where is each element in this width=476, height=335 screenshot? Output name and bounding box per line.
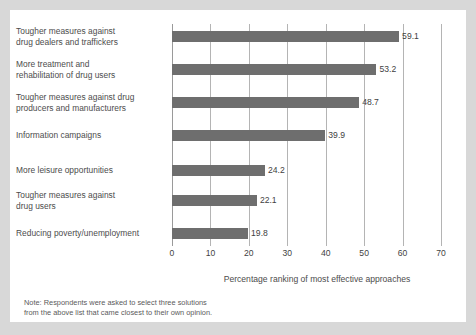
gridline-50 <box>364 24 365 246</box>
gridline-70 <box>441 24 442 246</box>
x-tick-label: 50 <box>359 248 369 259</box>
chart-note: Note: Respondents were asked to select t… <box>24 298 212 318</box>
category-label: More treatment and rehabilitation of dru… <box>16 59 176 80</box>
bar <box>172 130 325 141</box>
bar <box>172 165 265 176</box>
figure-root: Tougher measures against drug dealers an… <box>0 0 476 335</box>
plot-wrapper: Tougher measures against drug dealers an… <box>10 10 466 322</box>
bar <box>172 195 257 206</box>
category-label: Tougher measures against drug producers … <box>16 92 176 113</box>
category-label: Tougher measures against drug dealers an… <box>16 26 176 47</box>
x-tick-label: 40 <box>321 248 331 259</box>
x-tick-label: 30 <box>283 248 293 259</box>
bar-value-label: 53.2 <box>379 64 396 75</box>
gridline-40 <box>326 24 327 246</box>
bar-value-label: 39.9 <box>328 130 345 141</box>
bar <box>172 64 376 75</box>
bar-value-label: 22.1 <box>260 195 277 206</box>
x-tick-label: 70 <box>436 248 446 259</box>
x-axis-title: Percentage ranking of most effective app… <box>172 274 462 284</box>
x-tick-label: 10 <box>206 248 216 259</box>
category-label: Information campaigns <box>16 130 176 141</box>
category-label: More leisure opportunities <box>16 165 176 176</box>
category-label: Reducing poverty/unemployment <box>16 228 176 239</box>
chart-panel: Tougher measures against drug dealers an… <box>10 10 466 322</box>
bar <box>172 228 248 239</box>
x-axis: 010203040506070 <box>172 246 441 262</box>
bar <box>172 31 399 42</box>
gridline-60 <box>403 24 404 246</box>
bar-value-label: 48.7 <box>362 97 379 108</box>
x-tick-label: 60 <box>398 248 408 259</box>
bar-value-label: 24.2 <box>268 165 285 176</box>
x-tick-label: 20 <box>244 248 254 259</box>
category-axis-labels: Tougher measures against drug dealers an… <box>16 24 168 246</box>
bar <box>172 97 359 108</box>
bar-value-label: 59.1 <box>402 31 419 42</box>
plot-area: 59.153.248.739.924.222.119.8 <box>172 24 441 246</box>
x-tick-label: 0 <box>170 248 175 259</box>
category-label: Tougher measures against drug users <box>16 190 176 211</box>
bar-value-label: 19.8 <box>251 228 268 239</box>
